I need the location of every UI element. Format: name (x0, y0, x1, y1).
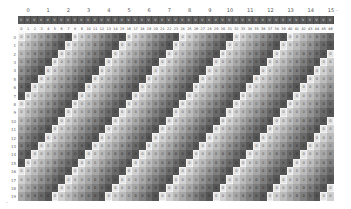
grid-cell: 0 (146, 184, 153, 192)
grid-cell: 0 (300, 66, 307, 74)
grid-cell: 0 (320, 117, 327, 125)
grid-cell: 0 (25, 117, 32, 125)
grid-cell: 0 (173, 125, 180, 133)
grid-cell: 0 (314, 133, 321, 141)
column-index: 29 (213, 24, 220, 32)
grid-cell: 0 (112, 150, 119, 158)
grid-cell: 0 (213, 108, 220, 116)
grid-cell: 0 (314, 33, 321, 41)
heatmap-grid: VVVVVVVVVVVVVVVVVVVVVVVVVVVVVVVVVVVVVVVV… (18, 16, 334, 201)
grid-cell: 0 (58, 83, 65, 91)
group-label: 4 (107, 7, 110, 13)
grid-cell: 0 (179, 192, 186, 200)
grid-cell: 0 (72, 50, 79, 58)
grid-cell: 0 (253, 117, 260, 125)
grid-cell: 0 (307, 167, 314, 175)
grid-cell: 0 (152, 150, 159, 158)
grid-cell: 0 (152, 92, 159, 100)
grid-row: 0000000000000000000000000000000000000000… (18, 108, 334, 116)
grid-cell: 0 (52, 50, 59, 58)
grid-cell: 0 (307, 41, 314, 49)
grid-cell: 0 (58, 125, 65, 133)
grid-cell: 0 (159, 159, 166, 167)
grid-cell: 0 (152, 58, 159, 66)
group-label: 9 (208, 7, 211, 13)
grid-cell: 0 (58, 66, 65, 74)
grid-cell: 0 (246, 125, 253, 133)
grid-cell: 0 (273, 167, 280, 175)
column-index: 40 (287, 24, 294, 32)
grid-cell: 0 (260, 100, 267, 108)
grid-cell: 0 (193, 175, 200, 183)
grid-cell: 0 (52, 83, 59, 91)
grid-cell: 0 (31, 58, 38, 66)
grid-cell: 0 (78, 175, 85, 183)
grid-cell: 0 (52, 75, 59, 83)
grid-cell: 0 (293, 108, 300, 116)
grid-cell: 0 (18, 108, 25, 116)
grid-cell: 0 (280, 117, 287, 125)
grid-cell: 0 (233, 167, 240, 175)
grid-cell: 0 (52, 92, 59, 100)
grid-cell: 0 (293, 175, 300, 183)
header-cell: V (253, 16, 260, 24)
grid-cell: 0 (65, 58, 72, 66)
grid-cell: 0 (260, 75, 267, 83)
grid-cell: 0 (105, 167, 112, 175)
grid-cell: 0 (132, 150, 139, 158)
grid-cell: 0 (240, 33, 247, 41)
grid-cell: 0 (99, 125, 106, 133)
grid-cell: 0 (246, 92, 253, 100)
grid-cell: 0 (139, 41, 146, 49)
column-index: 17 (132, 24, 139, 32)
grid-cell: 0 (226, 83, 233, 91)
grid-cell: 0 (267, 108, 274, 116)
header-cell: V (246, 16, 253, 24)
column-index: 30 (220, 24, 227, 32)
grid-cell: 0 (246, 41, 253, 49)
grid-cell: 0 (65, 75, 72, 83)
grid-cell: 0 (260, 41, 267, 49)
grid-cell: 0 (99, 33, 106, 41)
grid-cell: 0 (273, 41, 280, 49)
header-cell: V (105, 16, 112, 24)
group-label: 7 (168, 7, 171, 13)
grid-cell: 0 (52, 108, 59, 116)
grid-cell: 0 (65, 50, 72, 58)
grid-cell: 0 (152, 133, 159, 141)
grid-cell: 0 (280, 133, 287, 141)
grid-cell: 0 (293, 83, 300, 91)
grid-cell: 0 (314, 150, 321, 158)
grid-cell: 0 (92, 66, 99, 74)
grid-cell: 0 (213, 192, 220, 200)
grid-row: 0000000000000000000000000000000000000000… (18, 58, 334, 66)
grid-cell: 0 (92, 83, 99, 91)
header-cell: V (52, 16, 59, 24)
grid-cell: 0 (320, 133, 327, 141)
column-index: 35 (253, 24, 260, 32)
grid-row: 0000000000000000000000000000000000000000… (18, 167, 334, 175)
grid-cell: 0 (126, 117, 133, 125)
grid-cell: 0 (159, 150, 166, 158)
grid-cell: 0 (300, 142, 307, 150)
grid-cell: 0 (152, 41, 159, 49)
header-cell: V (45, 16, 52, 24)
grid-cell: 0 (220, 133, 227, 141)
grid-cell: 0 (300, 92, 307, 100)
grid-cell: 0 (293, 125, 300, 133)
header-cell: V (260, 16, 267, 24)
grid-cell: 0 (126, 192, 133, 200)
grid-cell: 0 (233, 133, 240, 141)
grid-cell: 0 (260, 117, 267, 125)
grid-cell: 0 (314, 108, 321, 116)
grid-cell: 0 (246, 50, 253, 58)
group-label: 11 (247, 7, 253, 13)
grid-cell: 0 (193, 92, 200, 100)
grid-cell: 0 (126, 100, 133, 108)
grid-cell: 0 (206, 41, 213, 49)
grid-cell: 0 (293, 117, 300, 125)
grid-cell: 0 (206, 58, 213, 66)
grid-cell: 0 (226, 41, 233, 49)
grid-cell: 0 (186, 33, 193, 41)
grid-cell: 0 (267, 150, 274, 158)
